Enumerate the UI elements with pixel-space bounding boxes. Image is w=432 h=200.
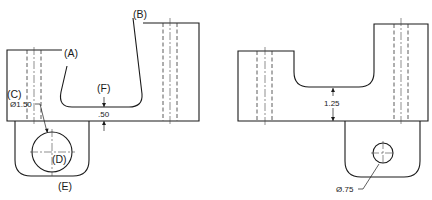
- label-e: (E): [58, 180, 72, 192]
- right-view: 1.25 Ø.75: [238, 18, 428, 194]
- arrow-icon: [331, 117, 335, 121]
- left-view: (A) (B) (C) (D) (E) (F) Ø1.50 .50: [7, 8, 199, 192]
- dim-small-hole-diameter: Ø.75: [336, 185, 354, 194]
- dim-gap: .50: [98, 110, 110, 119]
- label-d: (D): [52, 153, 67, 165]
- arrow-icon: [102, 103, 106, 107]
- arrow-icon: [102, 121, 106, 125]
- dim-slot-height: 1.25: [324, 99, 340, 108]
- label-a: (A): [64, 47, 78, 59]
- label-c: (C): [7, 88, 22, 100]
- right-tab: [345, 121, 420, 177]
- dim-hole-diameter: Ø1.50: [10, 100, 32, 109]
- label-b: (B): [133, 8, 147, 20]
- technical-drawing: (A) (B) (C) (D) (E) (F) Ø1.50 .50 1.25 Ø…: [0, 0, 432, 200]
- label-f: (F): [97, 82, 110, 94]
- arrow-icon: [331, 88, 335, 92]
